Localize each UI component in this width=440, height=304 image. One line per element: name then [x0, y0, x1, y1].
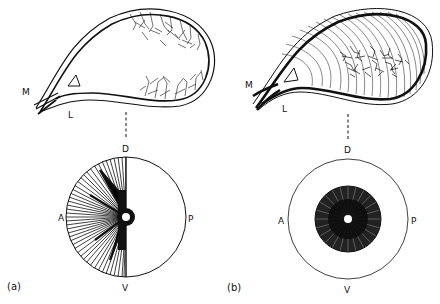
upper-arborization — [130, 12, 200, 50]
compass-dorsal-b: D — [344, 145, 351, 155]
panel-a-teardrop — [34, 9, 215, 114]
label-lateral-b: L — [282, 104, 287, 114]
compass-anterior-a: A — [58, 213, 65, 223]
center-hole-b — [344, 215, 352, 223]
panel-b-teardrop — [253, 8, 433, 110]
compass-posterior-a: P — [188, 214, 194, 224]
arcing-fibers — [282, 12, 424, 98]
compass-ventral-a: V — [122, 283, 129, 293]
figure-canvas: M L D V A P (a) — [0, 0, 440, 304]
panel-label-a: (a) — [7, 281, 21, 292]
compass-ventral-b: V — [344, 285, 351, 295]
panel-b-circle — [288, 159, 408, 279]
label-medial-a: M — [22, 87, 30, 97]
compass-dorsal-a: D — [122, 144, 129, 154]
panel-a-circle — [66, 157, 186, 277]
label-medial-b: M — [245, 80, 253, 90]
compass-posterior-b: P — [411, 216, 417, 226]
central-arborization — [340, 46, 409, 77]
panel-label-b: (b) — [227, 282, 241, 293]
center-hole-a — [122, 213, 130, 221]
compass-anterior-b: A — [278, 216, 285, 226]
label-lateral-a: L — [68, 110, 73, 120]
